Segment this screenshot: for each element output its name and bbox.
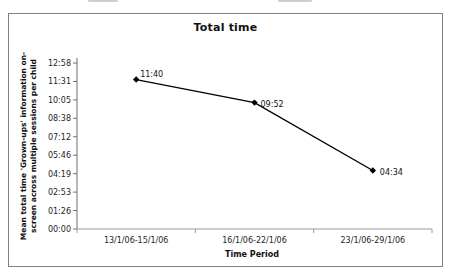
data-point-marker xyxy=(251,99,257,105)
data-point-label: 04:34 xyxy=(380,168,403,177)
data-point-label: 09:52 xyxy=(261,100,284,109)
y-tick-label: 12:58 xyxy=(48,59,71,68)
x-category-label: 13/1/06-15/1/06 xyxy=(104,236,169,245)
y-tick-label: 04:19 xyxy=(48,170,71,179)
y-tick-label: 07:12 xyxy=(48,133,71,142)
plot-area: 00:0001:2602:5304:1905:4607:1208:3810:05… xyxy=(0,0,451,276)
x-category-label: 16/1/06-22/1/06 xyxy=(222,236,287,245)
y-tick-label: 00:00 xyxy=(48,225,71,234)
y-tick-label: 10:05 xyxy=(48,96,71,105)
document-page: Total time Mean total time 'Grown-ups' i… xyxy=(0,0,451,276)
data-point-marker xyxy=(133,76,139,82)
data-point-label: 11:40 xyxy=(140,70,163,79)
x-category-label: 23/1/06-29/1/06 xyxy=(341,236,406,245)
y-tick-label: 02:53 xyxy=(48,188,71,197)
y-tick-label: 01:26 xyxy=(48,207,71,216)
y-tick-label: 05:46 xyxy=(48,151,71,160)
y-tick-label: 11:31 xyxy=(48,77,71,86)
y-tick-label: 08:38 xyxy=(48,114,71,123)
data-point-marker xyxy=(370,167,376,173)
series-line xyxy=(136,80,373,171)
